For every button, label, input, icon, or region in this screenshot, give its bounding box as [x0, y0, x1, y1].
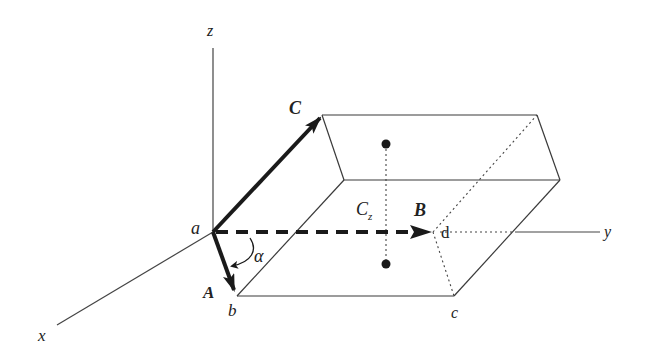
alpha-label: α	[254, 246, 264, 266]
bottom-center-point	[382, 260, 391, 269]
box-vector-diagram: z x y a b c d A B C α Cz	[0, 0, 650, 355]
vertex-d-label: d	[441, 223, 450, 242]
box	[237, 115, 560, 296]
vector-C-label: C	[289, 98, 302, 118]
box-left-slant-edge	[237, 180, 344, 296]
vector-A-label: A	[202, 283, 214, 302]
vector-B-label: B	[413, 200, 426, 220]
x-axis-label: x	[37, 326, 46, 345]
z-axis-label: z	[206, 22, 214, 39]
box-top-left-edge	[322, 115, 344, 180]
vertex-b-label: b	[228, 301, 237, 320]
center-label: Cz	[356, 199, 373, 222]
axes	[57, 48, 600, 325]
y-axis-label: y	[602, 223, 612, 241]
alpha-angle-arc	[232, 238, 253, 266]
vector-C-arrow	[213, 118, 320, 232]
vector-B-arrowhead	[410, 225, 432, 239]
vector-A-arrow	[213, 232, 234, 290]
hidden-edges	[386, 115, 537, 296]
vertex-c-label: c	[451, 304, 458, 321]
x-axis	[57, 232, 213, 325]
box-right-slant-edge	[454, 180, 560, 296]
center-label-subscript: z	[367, 210, 373, 222]
vertex-a-label: a	[191, 218, 200, 238]
top-center-point	[382, 140, 391, 149]
box-top-right-edge	[537, 115, 560, 180]
hidden-edge-d-top	[433, 115, 537, 232]
